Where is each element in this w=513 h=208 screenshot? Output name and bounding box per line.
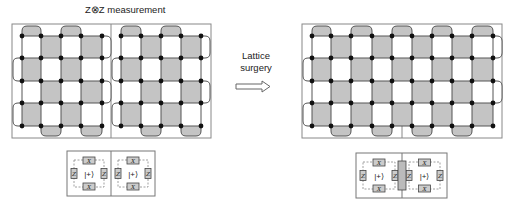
- qubit-dot: [100, 101, 105, 106]
- boundary-stabilizer: [102, 81, 111, 103]
- qubit-dot: [491, 101, 496, 106]
- qubit-dot: [310, 124, 315, 129]
- qubit-dot: [179, 79, 184, 84]
- qubit-dot: [370, 34, 375, 39]
- qubit-dot: [370, 124, 375, 129]
- boundary-stabilizer: [312, 26, 331, 36]
- qubit-dot: [20, 34, 25, 39]
- qubit-dot: [410, 56, 415, 61]
- lattice-surgery-diagram: XXZZ|+⟩XXZZ|+⟩XXZZ|+⟩XXZZ|+⟩: [0, 0, 513, 208]
- qubit-dot: [139, 101, 144, 106]
- qubit-dot: [39, 124, 44, 129]
- qubit-dot: [39, 79, 44, 84]
- qubit-dot: [470, 101, 475, 106]
- boundary-stabilizer: [81, 126, 102, 136]
- qubit-dot: [79, 79, 84, 84]
- boundary-stabilizer: [13, 103, 22, 126]
- qubit-dot: [329, 56, 334, 61]
- merged-zz-op: [398, 161, 406, 190]
- qubit-dot: [410, 124, 415, 129]
- qubit-dot: [430, 101, 435, 106]
- boundary-stabilizer: [432, 26, 452, 36]
- qubit-dot: [450, 101, 455, 106]
- qubit-dot: [39, 34, 44, 39]
- qubit-dot: [349, 124, 354, 129]
- logical-x-op-label: X: [130, 157, 136, 165]
- qubit-dot: [100, 124, 105, 129]
- stabilizer-plaquette: [432, 58, 452, 81]
- boundary-stabilizer: [112, 103, 121, 126]
- qubit-dot: [100, 56, 105, 61]
- boundary-stabilizer: [392, 26, 412, 36]
- boundary-stabilizer: [412, 126, 432, 136]
- stabilizer-plaquette: [141, 36, 161, 58]
- boundary-stabilizer: [161, 26, 181, 36]
- stabilizer-plaquette: [331, 36, 351, 58]
- qubit-dot: [470, 79, 475, 84]
- qubit-dot: [59, 101, 64, 106]
- qubit-dot: [390, 56, 395, 61]
- qubit-dot: [329, 79, 334, 84]
- qubit-dot: [119, 101, 124, 106]
- qubit-dot: [450, 34, 455, 39]
- stabilizer-plaquette: [22, 103, 41, 126]
- qubit-dot: [370, 56, 375, 61]
- ket-plus: |+⟩: [420, 172, 430, 181]
- logical-x-op-label: X: [376, 185, 382, 193]
- ket-plus: |+⟩: [128, 170, 138, 179]
- qubit-dot: [179, 101, 184, 106]
- stabilizer-plaquette: [181, 36, 201, 58]
- qubit-dot: [491, 56, 496, 61]
- qubit-dot: [450, 56, 455, 61]
- stabilizer-plaquette: [61, 103, 81, 126]
- qubit-dot: [119, 79, 124, 84]
- qubit-dot: [199, 101, 204, 106]
- qubit-dot: [79, 101, 84, 106]
- qubit-dot: [199, 34, 204, 39]
- boundary-stabilizer: [102, 36, 111, 58]
- qubit-dot: [39, 56, 44, 61]
- qubit-dot: [390, 101, 395, 106]
- qubit-dot: [139, 56, 144, 61]
- qubit-dot: [20, 101, 25, 106]
- stabilizer-plaquette: [392, 58, 412, 81]
- qubit-dot: [349, 56, 354, 61]
- qubit-dot: [430, 34, 435, 39]
- qubit-dot: [159, 79, 164, 84]
- stabilizer-plaquette: [121, 58, 141, 81]
- boundary-stabilizer: [303, 58, 312, 81]
- arrow-icon: [236, 81, 270, 92]
- boundary-stabilizer: [61, 26, 81, 36]
- qubit-dot: [159, 34, 164, 39]
- qubit-dot: [410, 79, 415, 84]
- boundary-stabilizer: [303, 103, 312, 126]
- boundary-stabilizer: [22, 26, 41, 36]
- qubit-dot: [20, 56, 25, 61]
- qubit-dot: [59, 56, 64, 61]
- qubit-dot: [310, 56, 315, 61]
- qubit-dot: [100, 79, 105, 84]
- qubit-dot: [450, 124, 455, 129]
- qubit-dot: [310, 34, 315, 39]
- qubit-dot: [329, 124, 334, 129]
- logical-z-op-label: Z: [72, 170, 76, 178]
- qubit-dot: [470, 34, 475, 39]
- qubit-dot: [159, 124, 164, 129]
- qubit-dot: [119, 34, 124, 39]
- boundary-stabilizer: [201, 36, 210, 58]
- boundary-stabilizer: [372, 126, 392, 136]
- boundary-stabilizer: [493, 81, 502, 103]
- stabilizer-plaquette: [121, 103, 141, 126]
- stabilizer-plaquette: [452, 36, 472, 58]
- qubit-dot: [119, 124, 124, 129]
- qubit-dot: [390, 79, 395, 84]
- boundary-stabilizer: [351, 26, 372, 36]
- qubit-dot: [59, 79, 64, 84]
- qubit-dot: [470, 124, 475, 129]
- qubit-dot: [159, 101, 164, 106]
- stabilizer-plaquette: [181, 81, 201, 103]
- logical-z-op-label: Z: [146, 170, 150, 178]
- stabilizer-plaquette: [61, 58, 81, 81]
- qubit-dot: [39, 101, 44, 106]
- ket-plus: |+⟩: [84, 170, 94, 179]
